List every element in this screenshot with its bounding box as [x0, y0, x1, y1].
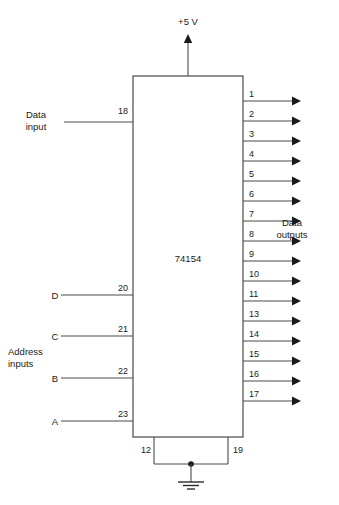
data-outputs-label-line2: outputs	[276, 229, 307, 240]
pin-number-6: 6	[249, 189, 254, 199]
chip-part-number: 74154	[175, 253, 201, 264]
pin-number-23: 23	[118, 409, 128, 419]
address-signal-C: C	[52, 331, 59, 342]
pin-number-4: 4	[249, 149, 254, 159]
output-arrow-icon-6	[292, 196, 301, 205]
output-arrow-icon-16	[292, 376, 301, 385]
pin-number-8: 8	[249, 229, 254, 239]
data-input-label-line2: input	[26, 121, 47, 132]
output-arrow-icon-17	[292, 396, 301, 405]
data-outputs-group: 12345678910111314151617	[243, 89, 301, 406]
pin-number-13: 13	[249, 309, 259, 319]
pin-number-22: 22	[118, 366, 128, 376]
pin-number-1: 1	[249, 89, 254, 99]
output-arrow-icon-15	[292, 356, 301, 365]
pin-number-20: 20	[118, 283, 128, 293]
output-arrow-icon-3	[292, 136, 301, 145]
data-input-label-line1: Data	[26, 109, 47, 120]
address-signal-A: A	[52, 416, 59, 427]
output-arrow-icon-11	[292, 296, 301, 305]
output-arrow-icon-14	[292, 336, 301, 345]
pin-number-14: 14	[249, 329, 259, 339]
output-arrow-icon-5	[292, 176, 301, 185]
output-arrow-icon-2	[292, 116, 301, 125]
pin-number-16: 16	[249, 369, 259, 379]
pin-number-9: 9	[249, 249, 254, 259]
pin-number-3: 3	[249, 129, 254, 139]
address-inputs-label-line1: Address	[8, 346, 43, 357]
pin-number-19: 19	[233, 445, 243, 455]
pin-number-2: 2	[249, 109, 254, 119]
power-arrow-icon	[184, 34, 192, 43]
pin-number-7: 7	[249, 209, 254, 219]
output-arrow-icon-10	[292, 276, 301, 285]
pin-number-21: 21	[118, 324, 128, 334]
output-arrow-icon-1	[292, 96, 301, 105]
output-arrow-icon-9	[292, 256, 301, 265]
power-supply-connection	[184, 34, 192, 76]
data-outputs-label-line1: Data	[282, 217, 303, 228]
address-signal-B: B	[52, 373, 58, 384]
pin-number-17: 17	[249, 389, 259, 399]
pin-number-10: 10	[249, 269, 259, 279]
pin-number-15: 15	[249, 349, 259, 359]
pin-number-12: 12	[141, 445, 151, 455]
address-inputs-label-line2: inputs	[8, 358, 34, 369]
address-signal-D: D	[52, 290, 59, 301]
power-label: +5 V	[178, 16, 198, 27]
pin-number-11: 11	[249, 289, 258, 299]
address-inputs-group: D20C21B22A23	[52, 283, 133, 427]
pin-number-18: 18	[118, 106, 128, 116]
pin-number-5: 5	[249, 169, 254, 179]
output-arrow-icon-4	[292, 156, 301, 165]
circuit-diagram: 74154 +5 V Data input 18 D20C21B22A23 Ad…	[0, 0, 339, 505]
output-arrow-icon-13	[292, 316, 301, 325]
ground-connection: 1219	[141, 437, 243, 489]
diagram-canvas: 74154 +5 V Data input 18 D20C21B22A23 Ad…	[0, 0, 339, 505]
